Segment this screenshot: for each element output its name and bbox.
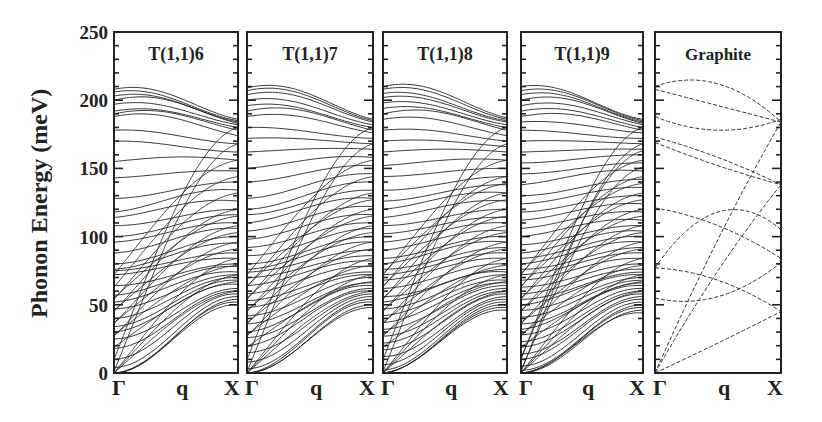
panel-t-1-1-6: T(1,1)6ΓqX [112, 32, 240, 400]
x-tick-x: X [359, 375, 375, 400]
x-tick-x: X [767, 375, 783, 400]
y-tick-label: 150 [80, 158, 109, 179]
panel-label: T(1,1)6 [148, 44, 204, 65]
panel-graphite: GraphiteΓqX [653, 32, 783, 400]
x-tick-gamma: Γ [381, 375, 395, 400]
y-axis-label: Phonon Energy (meV) [26, 89, 53, 318]
x-tick-q: q [176, 375, 189, 400]
y-tick-label: 50 [89, 295, 108, 316]
panel-frame [114, 32, 238, 373]
dispersion-curves [521, 86, 643, 374]
dispersion-curves [655, 80, 781, 373]
panel-label: T(1,1)7 [282, 44, 338, 65]
panel-frame [247, 32, 373, 373]
x-tick-q: q [582, 375, 595, 400]
x-tick-gamma: Γ [245, 375, 259, 400]
dispersion-curves [247, 85, 373, 373]
x-tick-x: X [629, 375, 645, 400]
panel-label: T(1,1)9 [554, 44, 610, 65]
panel-t-1-1-9: T(1,1)9ΓqX [519, 32, 645, 400]
x-tick-x: X [224, 375, 240, 400]
dispersion-curves [114, 87, 238, 373]
x-tick-gamma: Γ [519, 375, 533, 400]
phonon-dispersion-figure: 050100150200250T(1,1)6ΓqXT(1,1)7ΓqXT(1,1… [0, 0, 822, 422]
panel-label: T(1,1)8 [417, 44, 473, 65]
y-tick-label: 200 [80, 90, 109, 111]
y-tick-label: 0 [99, 363, 109, 384]
x-tick-q: q [445, 375, 458, 400]
panel-frame [655, 32, 781, 373]
x-tick-gamma: Γ [653, 375, 667, 400]
x-tick-q: q [718, 375, 731, 400]
y-tick-label: 250 [80, 22, 109, 43]
x-tick-x: X [493, 375, 509, 400]
y-tick-label: 100 [80, 227, 109, 248]
dispersion-curves [383, 84, 507, 373]
panel-label: Graphite [685, 45, 752, 64]
panel-t-1-1-7: T(1,1)7ΓqX [245, 32, 375, 400]
x-tick-q: q [310, 375, 323, 400]
x-tick-gamma: Γ [112, 375, 126, 400]
panel-frame [383, 32, 507, 373]
panel-t-1-1-8: T(1,1)8ΓqX [381, 32, 509, 400]
